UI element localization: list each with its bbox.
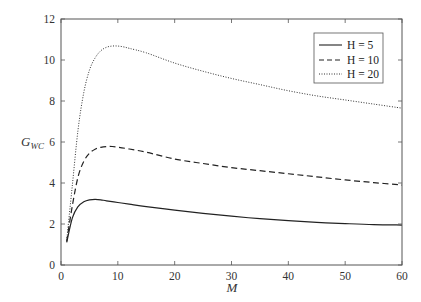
x-tick-label: 0 <box>58 270 64 282</box>
line-chart: 0102030405060024681012 M GWC H = 5 H = 1… <box>0 0 421 302</box>
legend-label: H = 5 <box>347 39 374 51</box>
legend: H = 5 H = 10 H = 20 <box>314 33 383 83</box>
legend-label: H = 10 <box>347 54 379 66</box>
x-tick-label: 50 <box>339 270 351 282</box>
y-tick-label: 12 <box>44 13 56 25</box>
x-tick-label: 40 <box>283 270 295 282</box>
y-axis-label-sub: WC <box>30 141 44 151</box>
y-tick-label: 0 <box>49 259 55 271</box>
y-tick-label: 6 <box>49 136 55 148</box>
legend-label: H = 20 <box>347 68 379 80</box>
x-tick-label: 20 <box>169 270 181 282</box>
series-line-solid <box>67 199 402 242</box>
y-axis-label: GWC <box>21 134 45 151</box>
x-tick-label: 60 <box>396 270 408 282</box>
y-tick-label: 2 <box>49 218 55 230</box>
y-tick-label: 8 <box>49 95 55 107</box>
series-line-dashed <box>67 146 402 241</box>
y-tick-label: 10 <box>44 54 56 66</box>
x-tick-label: 10 <box>112 270 124 282</box>
x-axis-label: M <box>226 280 239 295</box>
y-tick-label: 4 <box>49 177 55 189</box>
